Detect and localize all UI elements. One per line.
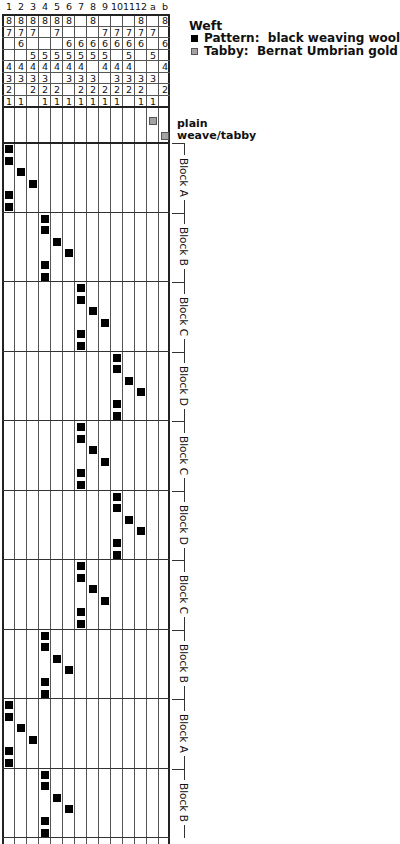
pattern-square	[77, 342, 85, 350]
pattern-square	[41, 643, 49, 651]
tie-up-cell: 3	[87, 73, 99, 85]
pattern-square	[101, 458, 109, 466]
tie-up-cell: 3	[15, 73, 27, 85]
pattern-square	[113, 493, 121, 501]
tie-up-cell: 5	[87, 50, 99, 62]
block-label: Block C	[178, 433, 190, 478]
tabby-square	[149, 117, 157, 125]
block-separator	[2, 490, 170, 491]
tie-up-cell: 2	[75, 84, 87, 96]
tie-up-cell: 5	[63, 50, 75, 62]
pattern-square	[5, 191, 13, 199]
tie-up-cell: 1	[39, 96, 51, 108]
tie-up-cell: 4	[39, 61, 51, 73]
pattern-square	[125, 377, 133, 385]
pattern-square	[5, 203, 13, 211]
tie-up-cell: 3	[3, 73, 15, 85]
grid-line	[86, 14, 87, 844]
pattern-square	[5, 759, 13, 767]
tie-up-cell: 3	[135, 73, 147, 85]
pattern-square	[113, 539, 121, 547]
bracket-tick	[172, 282, 184, 283]
pattern-square	[41, 226, 49, 234]
tie-up-cell: 1	[147, 96, 159, 108]
pattern-square	[89, 446, 97, 454]
treadle-number: 2	[15, 1, 27, 13]
pattern-square	[41, 829, 49, 837]
tie-up-cell: 8	[27, 15, 39, 27]
grid-line	[26, 14, 27, 844]
legend-item-label: Tabby: Bernat Umbrian gold	[204, 45, 398, 58]
pattern-square	[89, 585, 97, 593]
tie-up-cell: 2	[51, 84, 63, 96]
pattern-square	[77, 608, 85, 616]
tie-up-cell: 8	[159, 15, 171, 27]
pattern-square	[5, 701, 13, 709]
pattern-square	[77, 469, 85, 477]
tie-up-cell: 3	[39, 73, 51, 85]
bracket-tick	[172, 769, 184, 770]
pattern-square	[41, 273, 49, 281]
block-separator	[2, 698, 170, 699]
tie-up-cell: 4	[27, 61, 39, 73]
grid-line	[50, 14, 51, 844]
treadle-number: 6	[63, 1, 75, 13]
block-label: Block B	[178, 224, 190, 269]
tie-up-cell: 5	[147, 50, 159, 62]
tie-up-cell: 3	[63, 73, 75, 85]
pattern-square	[77, 574, 85, 582]
pattern-square	[41, 261, 49, 269]
block-separator	[2, 629, 170, 630]
tie-up-cell: 7	[3, 27, 15, 39]
grid-line	[122, 14, 123, 844]
tie-up-cell: 2	[135, 84, 147, 96]
tie-up-cell: 2	[39, 84, 51, 96]
block-separator	[2, 281, 170, 282]
pattern-square	[65, 249, 73, 257]
tie-up-cell: 3	[147, 73, 159, 85]
block-separator	[2, 837, 170, 838]
tie-up-cell: 5	[99, 50, 111, 62]
tie-up-cell: 7	[123, 27, 135, 39]
pattern-square	[53, 655, 61, 663]
tie-up-cell: 2	[123, 84, 135, 96]
bracket-tick	[172, 421, 184, 422]
tie-up-cell: 2	[87, 84, 99, 96]
tie-up-cell: 7	[15, 27, 27, 39]
tie-up-cell: 4	[111, 61, 123, 73]
tie-up-cell: 6	[111, 38, 123, 50]
pattern-square	[65, 666, 73, 674]
black-square-icon	[191, 35, 198, 42]
treadle-number: 3	[27, 1, 39, 13]
tie-up-cell: 2	[3, 84, 15, 96]
pattern-square	[77, 330, 85, 338]
pattern-square	[41, 817, 49, 825]
pattern-square	[5, 713, 13, 721]
tie-up-cell: 4	[3, 61, 15, 73]
treadle-number: 7	[75, 1, 87, 13]
tie-up-cell: 3	[27, 73, 39, 85]
tie-up-cell: 8	[63, 15, 75, 27]
treadle-number: 5	[51, 1, 63, 13]
pattern-square	[5, 157, 13, 165]
pattern-square	[77, 481, 85, 489]
tie-up-cell: 1	[51, 96, 63, 108]
tie-up-cell: 7	[99, 27, 111, 39]
tie-up-cell: 4	[123, 61, 135, 73]
pattern-square	[125, 516, 133, 524]
treadle-number: 9	[99, 1, 111, 13]
pattern-square	[17, 724, 25, 732]
pattern-square	[5, 145, 13, 153]
tie-up-cell: 6	[135, 38, 147, 50]
tie-up-cell: 5	[75, 50, 87, 62]
block-label: Block A	[178, 155, 190, 200]
tie-up-cell: 6	[63, 38, 75, 50]
pattern-square	[113, 504, 121, 512]
tie-up-cell: 2	[159, 84, 171, 96]
grid-line	[74, 14, 75, 844]
bracket-tick	[172, 699, 184, 700]
tie-up-cell: 6	[99, 38, 111, 50]
tie-up-cell: 1	[111, 96, 123, 108]
pattern-square	[137, 527, 145, 535]
pattern-square	[65, 805, 73, 813]
